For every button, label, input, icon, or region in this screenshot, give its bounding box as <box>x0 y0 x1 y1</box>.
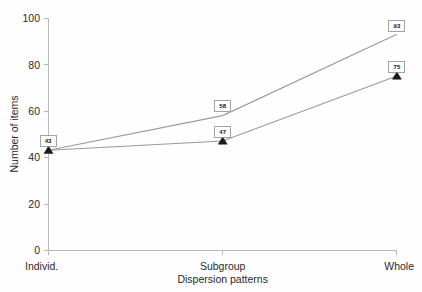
data-label-43-text: 43 <box>45 138 52 144</box>
line-chart: 100 80 60 40 20 0 Individ. Subgroup Whol… <box>0 0 422 292</box>
y-tick-label-20: 20 <box>28 198 40 210</box>
y-tick-label-100: 100 <box>22 12 40 24</box>
data-label-47: 47 <box>215 126 231 137</box>
y-tick-label-60: 60 <box>28 105 40 117</box>
x-axis-title: Dispersion patterns <box>177 273 267 285</box>
y-tick-label-40: 40 <box>28 151 40 163</box>
x-category-label-whole: Whole <box>384 260 414 272</box>
y-axis-title: Number of items <box>8 95 20 172</box>
x-category-label-individ: Individ. <box>25 260 58 272</box>
data-label-58: 58 <box>215 101 231 112</box>
x-category-label-subgroup: Subgroup <box>200 260 246 272</box>
chart-screenshot: 100 80 60 40 20 0 Individ. Subgroup Whol… <box>0 0 422 292</box>
y-tick-label-80: 80 <box>28 59 40 71</box>
data-label-58-text: 58 <box>219 103 226 109</box>
data-label-43: 43 <box>40 136 56 147</box>
data-label-93-text: 93 <box>394 23 401 29</box>
data-label-75-text: 75 <box>394 64 401 70</box>
chart-background <box>0 0 422 292</box>
data-label-75: 75 <box>389 61 405 72</box>
y-tick-label-0: 0 <box>34 244 40 256</box>
data-label-47-text: 47 <box>219 129 226 135</box>
data-label-93: 93 <box>389 21 405 32</box>
